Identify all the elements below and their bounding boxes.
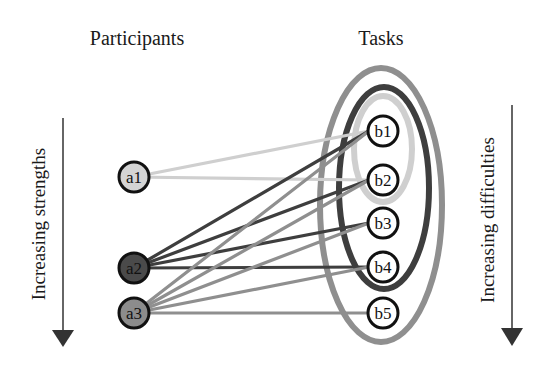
participant-node-a1: a1 (119, 162, 149, 192)
node-label: b1 (375, 122, 392, 141)
strengths-axis: Increasing strengths (28, 118, 74, 347)
task-node-b4: b4 (368, 252, 398, 282)
strengths-axis-label: Increasing strengths (28, 148, 49, 300)
down-arrow-icon (52, 330, 74, 347)
task-node-b1: b1 (368, 116, 398, 146)
difficulties-axis-label: Increasing difficulties (477, 137, 498, 303)
difficulties-axis: Increasing difficulties (477, 105, 523, 346)
task-node-b3: b3 (368, 208, 398, 238)
node-label: a2 (126, 259, 142, 278)
participant-node-a3: a3 (119, 298, 149, 328)
node-label: b5 (375, 304, 392, 323)
participant-nodes: a1a2a3 (119, 162, 149, 328)
down-arrow-icon (501, 328, 523, 346)
node-label: a1 (126, 168, 142, 187)
edge-a1-b1 (134, 131, 369, 177)
node-label: b2 (375, 171, 392, 190)
node-label: b4 (375, 258, 393, 277)
tasks-header: Tasks (358, 27, 403, 49)
node-label: a3 (126, 304, 142, 323)
bipartite-diagram: Participants Tasks Increasing strengths … (0, 0, 554, 366)
task-node-b5: b5 (368, 298, 398, 328)
edge-a1-b2 (134, 177, 369, 180)
participants-header: Participants (90, 27, 185, 50)
task-nodes: b1b2b3b4b5 (368, 116, 398, 328)
task-node-b2: b2 (368, 165, 398, 195)
node-label: b3 (375, 214, 392, 233)
participant-node-a2: a2 (119, 253, 149, 283)
